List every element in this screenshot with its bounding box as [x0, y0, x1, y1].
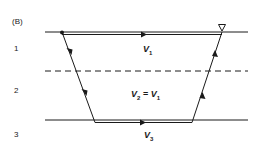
velocity-label-layer-3: V3 [144, 131, 153, 142]
velocity-label-layer-2: V2 = V1 [131, 90, 160, 101]
layer-1-number: 1 [14, 45, 18, 53]
layer-3-number: 3 [14, 131, 18, 139]
velocity-subscript: 1 [149, 50, 152, 56]
refraction-diagram-svg [0, 0, 260, 144]
velocity-subscript: 1 [157, 95, 160, 101]
upgoing-ray-line [192, 32, 222, 123]
receiver-icon [219, 25, 226, 32]
arrow-up-1-icon [200, 92, 206, 99]
velocity-subscript: 2 [137, 95, 140, 101]
layer-2-number: 2 [14, 87, 18, 95]
source-point-icon [60, 31, 64, 35]
equals-sign: = [143, 89, 148, 99]
velocity-label-layer-1: V1 [143, 45, 152, 56]
arrow-up-2-icon [212, 50, 218, 57]
velocity-subscript: 3 [150, 136, 153, 142]
downgoing-ray-line [62, 32, 95, 123]
